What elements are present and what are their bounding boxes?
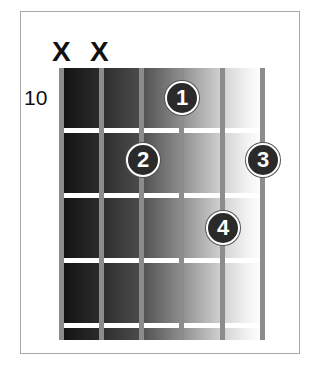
finger-dot-3: 3: [246, 143, 280, 177]
string-2: [220, 68, 225, 340]
fretboard: [61, 68, 265, 340]
mute-x-string-6: X: [52, 38, 71, 66]
fret-2: [63, 193, 263, 198]
string-1: [260, 68, 265, 340]
fret-3: [63, 258, 263, 263]
string-5: [99, 68, 104, 340]
finger-dot-2: 2: [126, 143, 160, 177]
finger-dot-1: 1: [165, 81, 199, 115]
fret-1: [63, 128, 263, 133]
start-fret-number: 10: [24, 86, 47, 110]
finger-dot-4: 4: [206, 211, 240, 245]
string-6: [59, 68, 64, 340]
fret-4: [63, 323, 263, 328]
mute-x-string-5: X: [90, 38, 109, 66]
string-4: [139, 68, 144, 340]
